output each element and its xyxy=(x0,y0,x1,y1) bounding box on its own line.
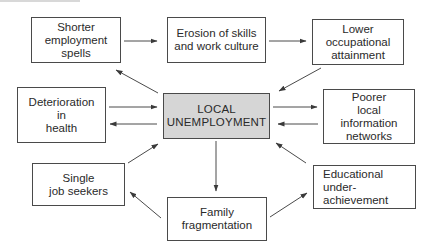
node-shorter-employment-spells: Shorter employment spells xyxy=(31,17,121,63)
node-lower-occupational-attainment: Lower occupational attainment xyxy=(312,19,404,65)
node-label: Educational under- achievement xyxy=(323,168,388,207)
central-label: LOCAL UNEMPLOYMENT xyxy=(167,103,267,129)
node-label: Poorer local information networks xyxy=(341,91,398,143)
node-label: Lower occupational attainment xyxy=(326,23,391,62)
node-label: Single job seekers xyxy=(49,172,108,198)
arrow-central-to-shorter xyxy=(116,70,158,93)
arrow-lower-to-central xyxy=(279,68,321,91)
node-single-job-seekers: Single job seekers xyxy=(32,163,125,206)
node-educational-under-achievement: Educational under- achievement xyxy=(313,165,416,209)
node-family-fragmentation: Family fragmentation xyxy=(167,197,267,241)
node-deterioration-in-health: Deterioration in health xyxy=(17,87,106,143)
diagram-canvas: Shorter employment spells Erosion of ski… xyxy=(0,0,430,249)
node-label: Family fragmentation xyxy=(182,206,252,232)
arrow-educational-to-central xyxy=(276,143,306,163)
arrow-single-to-central xyxy=(128,144,158,163)
node-label: Shorter employment spells xyxy=(45,21,108,60)
node-label: Erosion of skills and work culture xyxy=(174,27,258,53)
node-erosion-of-skills: Erosion of skills and work culture xyxy=(167,17,266,63)
arrow-family-to-single xyxy=(130,192,161,218)
node-label: Deterioration in health xyxy=(29,96,95,135)
arrow-family-to-educational xyxy=(270,193,307,217)
node-poorer-local-information-networks: Poorer local information networks xyxy=(323,89,415,144)
node-local-unemployment: LOCAL UNEMPLOYMENT xyxy=(163,93,270,139)
